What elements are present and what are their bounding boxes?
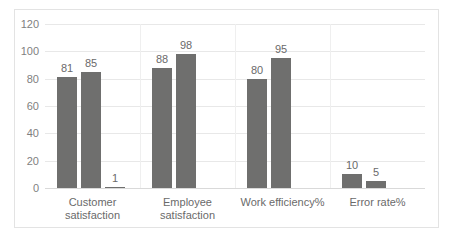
bar[interactable] [57,77,77,188]
bar[interactable] [342,174,362,188]
category-label-line: satisfaction [45,209,140,222]
bar-group-bars: 81851 [45,24,140,188]
bar-slot: 88 [152,24,172,188]
y-axis-tick-label: 100 [21,46,39,57]
bar-slot: 5 [366,24,386,188]
y-axis-tick-label: 20 [27,155,39,166]
category-label-line: Work efficiency% [235,196,330,209]
category-label-line: Error rate% [330,196,425,209]
category-label-line: satisfaction [140,209,235,222]
bar-value-label: 80 [251,65,263,76]
bar-group-bars: 8095 [235,24,330,188]
y-axis-tick-label: 40 [27,128,39,139]
bar-slot: 1 [105,24,125,188]
bar[interactable] [366,181,386,188]
x-axis-category-label: Customersatisfaction [45,196,140,222]
y-axis-tick-label: 60 [27,101,39,112]
bar-group-bars: 8898 [140,24,235,188]
bar-value-label: 81 [61,63,73,74]
bar-group: 8898Employeesatisfaction [140,24,235,188]
plot-area: 02040608010012081851Customersatisfaction… [45,24,425,188]
bar-slot: 10 [342,24,362,188]
bar[interactable] [152,68,172,188]
bar-value-label: 10 [346,160,358,171]
category-label-line: Employee [140,196,235,209]
bar-value-label: 1 [112,173,118,184]
bar-value-label: 5 [373,167,379,178]
bar[interactable] [81,72,101,188]
bar-value-label: 98 [180,40,192,51]
bar-slot: 95 [271,24,291,188]
bar-value-label: 88 [156,54,168,65]
category-label-line: Customer [45,196,140,209]
y-axis-tick-label: 0 [33,183,39,194]
bar-value-label: 85 [85,58,97,69]
bar-group: 105Error rate% [330,24,425,188]
x-axis-category-label: Error rate% [330,196,425,209]
bar[interactable] [105,187,125,188]
axis-baseline [45,188,425,189]
bar-slot: 85 [81,24,101,188]
bar-slot: 98 [176,24,196,188]
x-axis-category-label: Work efficiency% [235,196,330,209]
bar[interactable] [176,54,196,188]
bar-slot: 81 [57,24,77,188]
bar-value-label: 95 [275,44,287,55]
x-axis-category-label: Employeesatisfaction [140,196,235,222]
bar[interactable] [271,58,291,188]
bar-group-bars: 105 [330,24,425,188]
y-axis-tick-label: 120 [21,19,39,30]
chart-container: 02040608010012081851Customersatisfaction… [14,9,439,228]
bar-group: 8095Work efficiency% [235,24,330,188]
bar[interactable] [247,79,267,188]
y-axis-tick-label: 80 [27,73,39,84]
bar-group: 81851Customersatisfaction [45,24,140,188]
bar-slot: 80 [247,24,267,188]
